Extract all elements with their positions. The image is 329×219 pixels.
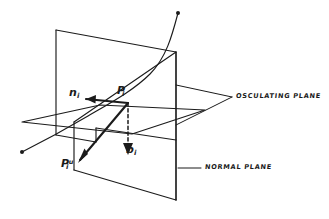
normal-plane-shape <box>74 52 176 200</box>
osculating-plane-shape <box>56 30 176 200</box>
point-u-superscript: u <box>69 158 74 166</box>
point-u-label: Piu <box>61 157 73 171</box>
curve-endpoint-top <box>176 11 180 15</box>
point-u-subscript: i <box>66 163 68 171</box>
normal-vector-subscript: i <box>77 92 79 100</box>
space-curve <box>20 11 180 154</box>
point-label: Pi <box>117 84 124 98</box>
figure-canvas: OSCULATING PLANE NORMAL PLANE ni Pi bi P… <box>0 0 329 219</box>
curve-endpoint-bottom <box>20 150 24 154</box>
diagram-svg <box>0 0 329 219</box>
binormal-vector-symbol: b <box>126 143 134 156</box>
osculating-plane-leader <box>176 85 232 125</box>
point-subscript: i <box>122 90 124 98</box>
osculating-plane-caption: OSCULATING PLANE <box>236 92 322 100</box>
normal-vector-symbol: n <box>69 86 77 99</box>
binormal-vector-subscript: i <box>134 149 136 157</box>
binormal-vector-label: bi <box>126 143 136 157</box>
normal-plane-caption: NORMAL PLANE <box>205 163 273 171</box>
normal-vector-label: ni <box>69 86 79 100</box>
